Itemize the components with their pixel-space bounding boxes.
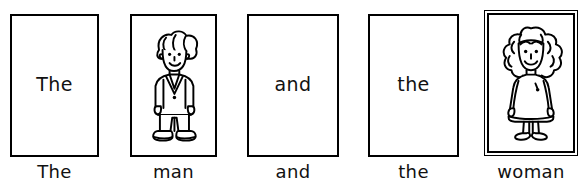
card-word-4: the [397,75,429,94]
card-caption-1: The [10,163,99,181]
card-slot-2: man [130,0,217,192]
woman-figure-icon [491,24,571,143]
card-2[interactable] [130,14,217,157]
sentence-card-strip: TheThe [0,0,584,192]
card-inner-frame-5 [487,13,575,153]
man-figure-icon [137,27,211,145]
card-caption-3: and [247,163,339,181]
card-caption-2: man [130,163,217,181]
man-figure-icon [132,16,215,155]
card-3[interactable]: and [247,14,339,157]
card-caption-5: woman [484,163,578,181]
card-5[interactable] [484,10,578,156]
card-slot-3: andand [247,0,339,192]
card-slot-4: thethe [368,0,459,192]
card-slot-5: woman [484,0,578,192]
woman-figure-icon [489,15,573,151]
card-slot-1: TheThe [10,0,99,192]
card-word-1: The [36,75,73,94]
card-4[interactable]: the [368,14,459,157]
card-1[interactable]: The [10,14,99,157]
card-word-3: and [275,75,312,94]
card-caption-4: the [368,163,459,181]
